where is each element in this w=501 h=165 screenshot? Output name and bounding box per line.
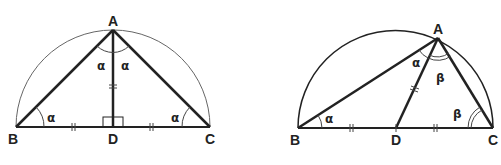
equal-tick-marks [350,86,437,132]
label-a: A [108,13,118,29]
label-b: B [8,131,18,147]
angle-arc-a-alpha [419,50,428,58]
angle-label-acd: β [453,107,462,121]
angle-arc-c [182,107,190,127]
angle-label-abd: α [47,111,55,125]
angle-label-dac: α [121,59,129,73]
angle-label-acd: α [171,111,179,125]
segment-ab [16,30,113,127]
segment-ac [438,38,493,128]
label-b: B [290,132,300,148]
label-d: D [108,131,118,147]
angle-arc-b [36,107,44,127]
angle-label-dac: β [436,71,445,85]
diagram-canvas: A B D C α α α α A B D C α [0,0,501,165]
label-d: D [391,132,401,148]
label-a: A [433,21,443,37]
angle-label-bad: α [412,56,420,70]
right-figure: A B D C α β α β [290,21,498,148]
label-c: C [205,131,215,147]
angle-label-bad: α [97,59,105,73]
left-figure: A B D C α α α α [8,13,215,147]
angle-label-abd: α [325,112,333,126]
label-c: C [488,132,498,148]
angle-arc-b [318,115,322,128]
segment-ac [113,30,210,127]
